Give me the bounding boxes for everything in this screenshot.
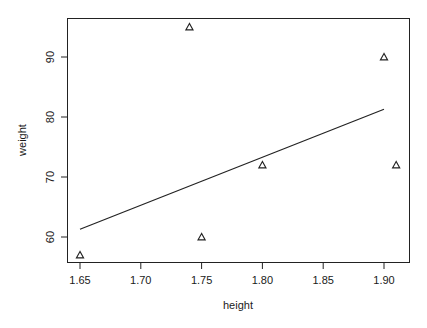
triangle-marker-icon — [76, 251, 83, 257]
x-tick-label: 1.65 — [69, 274, 90, 286]
plot-frame — [68, 19, 410, 263]
x-tick-label: 1.75 — [191, 274, 212, 286]
y-tick-label: 70 — [44, 171, 56, 183]
x-tick-label: 1.90 — [373, 274, 394, 286]
y-axis: 60708090 — [44, 51, 68, 243]
x-tick-label: 1.70 — [130, 274, 151, 286]
y-axis-title: weight — [16, 124, 28, 157]
triangle-marker-icon — [259, 161, 266, 167]
y-tick-label: 90 — [44, 51, 56, 63]
y-tick-label: 60 — [44, 231, 56, 243]
x-tick-label: 1.85 — [312, 274, 333, 286]
triangle-marker-icon — [393, 161, 400, 167]
triangle-marker-icon — [186, 23, 193, 29]
x-axis-title: height — [223, 299, 253, 311]
x-tick-label: 1.80 — [252, 274, 273, 286]
regression-line — [80, 109, 384, 229]
data-points — [76, 23, 399, 257]
y-tick-label: 80 — [44, 111, 56, 123]
triangle-marker-icon — [198, 233, 205, 239]
x-axis: 1.651.701.751.801.851.90 — [69, 263, 394, 287]
scatter-chart: 1.651.701.751.801.851.90 60708090 height… — [0, 0, 427, 328]
triangle-marker-icon — [380, 53, 387, 59]
